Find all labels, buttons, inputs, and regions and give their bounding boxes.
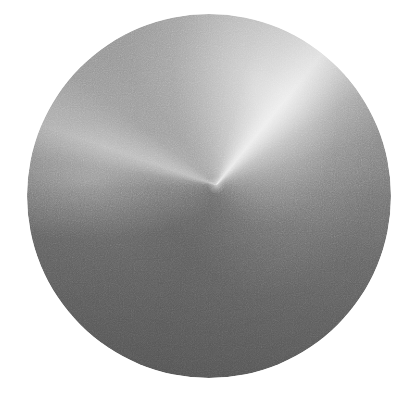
film-grain-texture xyxy=(27,14,391,378)
gradient-disc xyxy=(27,14,391,378)
image-alt-text: A large light-to-dark gray circle fillin… xyxy=(0,0,1,1)
image-canvas: Grayscale circular disc with angular (co… xyxy=(0,0,413,408)
image-title: Grayscale circular disc with angular (co… xyxy=(0,0,1,1)
